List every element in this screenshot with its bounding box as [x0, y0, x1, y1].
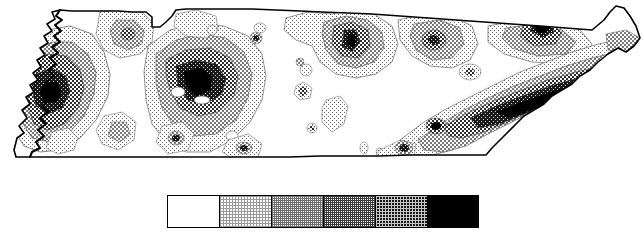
- legend-swatch-0[interactable]: [167, 195, 219, 228]
- legend-swatch-2[interactable]: [271, 195, 323, 228]
- legend-swatch-4[interactable]: [323, 195, 375, 228]
- legend-swatch-bar: [167, 195, 479, 228]
- legend-swatch-6[interactable]: [375, 195, 427, 228]
- legend-swatch-1[interactable]: [219, 195, 271, 228]
- legend-swatch-8[interactable]: [427, 195, 479, 228]
- map-area: [0, 0, 644, 172]
- figure-root: 0 1 2 4 6 8: [0, 0, 644, 245]
- tennessee-map-svg: [0, 0, 644, 172]
- legend: 0 1 2 4 6 8: [167, 195, 479, 228]
